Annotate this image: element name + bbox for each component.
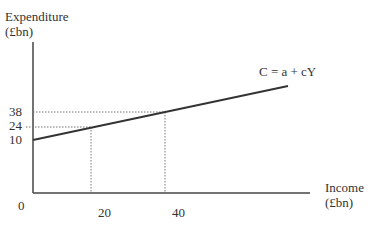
y-axis-unit: (£bn) <box>5 24 33 39</box>
x-tick-40: 40 <box>172 205 185 220</box>
x-tick-20: 20 <box>98 205 111 220</box>
y-tick-38: 38 <box>9 104 22 119</box>
x-axis-unit: (£bn) <box>325 195 353 210</box>
y-axis-label: Expenditure <box>5 9 69 24</box>
y-tick-10: 10 <box>9 132 22 147</box>
y-tick-24: 24 <box>9 118 22 133</box>
consumption-line <box>33 86 288 140</box>
consumption-function-chart <box>0 0 374 228</box>
equation-label: C = a + cY <box>259 64 316 79</box>
origin-label: 0 <box>18 198 25 213</box>
x-axis-label: Income <box>325 180 364 195</box>
